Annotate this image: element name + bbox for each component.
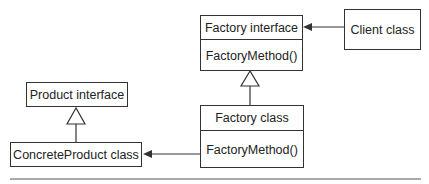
inheritance-triangle-icon bbox=[67, 108, 85, 124]
factory-interface-method: FactoryMethod() bbox=[201, 40, 302, 71]
arrowhead-icon bbox=[143, 150, 152, 158]
factory-class-box: Factory class FactoryMethod() bbox=[200, 105, 304, 168]
inheritance-triangle-icon bbox=[241, 71, 259, 86]
client-class-box: Client class bbox=[344, 9, 421, 50]
factory-interface-box: Factory interface FactoryMethod() bbox=[200, 15, 303, 71]
factory-class-title: Factory class bbox=[201, 106, 303, 130]
product-interface-title: Product interface bbox=[27, 83, 127, 106]
product-interface-box: Product interface bbox=[26, 82, 128, 107]
factory-class-method: FactoryMethod() bbox=[201, 131, 303, 168]
concrete-product-class-box: ConcreteProduct class bbox=[10, 142, 142, 167]
concrete-product-class-title: ConcreteProduct class bbox=[11, 143, 141, 166]
factory-interface-title: Factory interface bbox=[201, 16, 302, 39]
client-class-title: Client class bbox=[345, 10, 420, 49]
arrowhead-icon bbox=[303, 23, 312, 31]
